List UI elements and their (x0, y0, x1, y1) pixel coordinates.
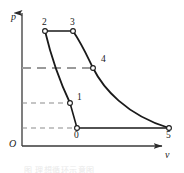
state-point-label-1: 1 (77, 93, 82, 103)
origin-label: O (9, 139, 16, 149)
process-curve-3-4-5 (73, 31, 169, 128)
process-segment-1-0 (70, 103, 77, 128)
state-point-marker-4 (91, 66, 96, 71)
figure-caption: 图 理想循环示意图 (24, 164, 174, 173)
process-curves-group (45, 31, 169, 128)
state-point-marker-2 (43, 29, 48, 34)
guide-lines-group (22, 68, 93, 128)
state-point-label-4: 4 (101, 55, 106, 65)
state-point-label-5: 5 (166, 131, 171, 141)
state-point-marker-1 (68, 101, 73, 106)
pv-diagram-canvas (0, 0, 184, 173)
y-axis-label: p (11, 12, 16, 22)
state-point-label-0: 0 (74, 131, 79, 141)
x-axis-label: v (165, 150, 169, 160)
state-point-label-2: 2 (42, 18, 47, 28)
state-point-markers-group (43, 29, 172, 131)
state-point-label-3: 3 (70, 18, 75, 28)
pv-diagram-figure: 234105 p v O 图 理想循环示意图 (0, 0, 184, 173)
state-point-marker-3 (71, 29, 76, 34)
